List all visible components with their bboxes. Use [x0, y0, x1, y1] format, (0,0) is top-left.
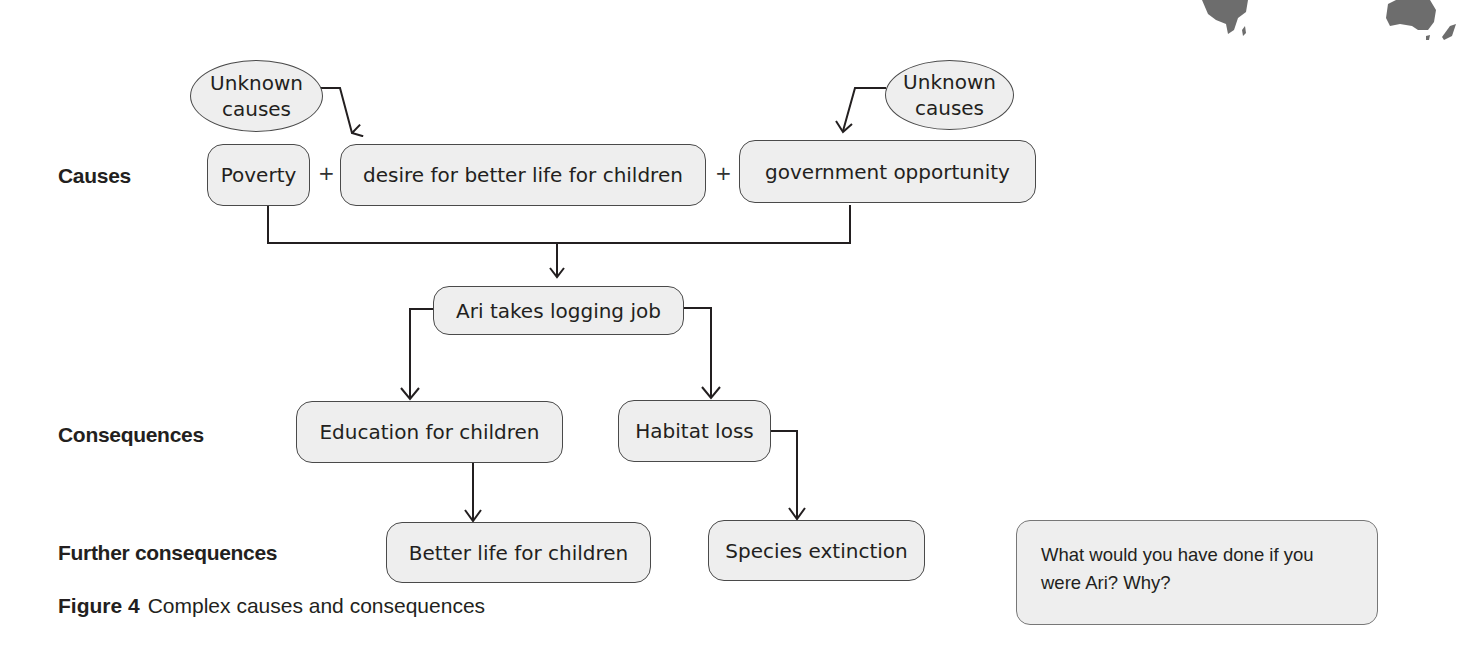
oval-text-line2: causes — [222, 96, 291, 122]
plus-sign: + — [318, 161, 335, 185]
further-species-extinction: Species extinction — [708, 520, 925, 581]
oval-text-line2: causes — [915, 95, 984, 121]
central-event-ari-logging-job: Ari takes logging job — [433, 286, 684, 335]
plus-sign: + — [715, 161, 732, 185]
consequence-education: Education for children — [296, 401, 563, 463]
figure-caption-text: Complex causes and consequences — [148, 594, 485, 617]
figure-label: Figure 4 — [58, 594, 140, 617]
unknown-causes-left: Unknown causes — [190, 60, 323, 132]
oval-text-line1: Unknown — [210, 70, 303, 96]
further-better-life: Better life for children — [386, 522, 651, 583]
cause-poverty: Poverty — [207, 144, 310, 206]
cause-desire-better-life: desire for better life for children — [340, 144, 706, 206]
unknown-causes-right: Unknown causes — [885, 60, 1014, 130]
consequence-habitat-loss: Habitat loss — [618, 400, 771, 462]
row-label-consequences: Consequences — [58, 423, 204, 447]
row-label-causes: Causes — [58, 164, 131, 188]
oval-text-line1: Unknown — [903, 69, 996, 95]
figure-caption: Figure 4Complex causes and consequences — [58, 594, 485, 618]
row-label-further-consequences: Further consequences — [58, 541, 277, 565]
reflection-question: What would you have done if you were Ari… — [1016, 520, 1378, 625]
cause-government-opportunity: government opportunity — [739, 140, 1036, 203]
